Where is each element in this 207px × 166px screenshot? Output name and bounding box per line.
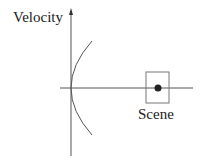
axis-arrow-icon [69,8,73,15]
scene-dot [155,85,162,92]
scene-label: Scene [138,106,174,122]
velocity-diagram: Velocity Scene [0,0,207,166]
velocity-label: Velocity [13,9,63,25]
